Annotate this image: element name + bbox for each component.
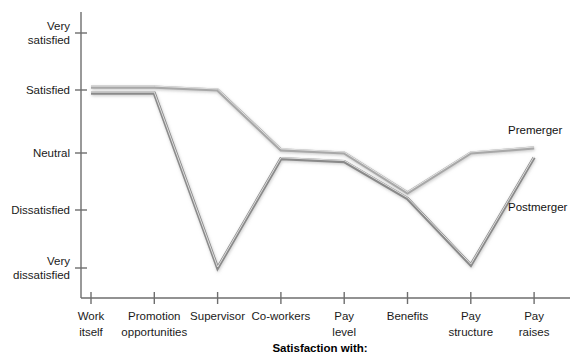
x-tick-label: Benefits bbox=[387, 310, 429, 322]
x-tick-label: Pay bbox=[461, 310, 481, 322]
y-tick-label: dissatisfied bbox=[13, 269, 70, 281]
series-annotations: PremergerPostmerger bbox=[508, 124, 568, 213]
x-tick-label: structure bbox=[448, 326, 493, 338]
x-tick-label: Work bbox=[78, 310, 105, 322]
y-tick-label: Very bbox=[47, 255, 70, 267]
x-axis-category-labels: WorkitselfPromotionopportunitiesSupervis… bbox=[78, 310, 550, 338]
series-highlight-postmerger bbox=[91, 92, 534, 267]
y-tick-label: Neutral bbox=[33, 147, 70, 159]
x-tick-label: raises bbox=[519, 326, 550, 338]
x-tick-label: Supervisor bbox=[190, 310, 245, 322]
y-tick-label: satisfied bbox=[28, 34, 70, 46]
chart-canvas: VerysatisfiedSatisfiedNeutralDissatisfie… bbox=[0, 0, 581, 355]
x-tick-label: Co-workers bbox=[252, 310, 311, 322]
series-lines bbox=[91, 86, 534, 268]
x-tick-label: Promotion bbox=[128, 310, 180, 322]
y-tick-label: Very bbox=[47, 20, 70, 32]
x-tick-label: Pay bbox=[334, 310, 354, 322]
x-axis-title: Satisfaction with: bbox=[272, 342, 367, 354]
series-line-postmerger bbox=[91, 93, 534, 268]
series-label-premerger: Premerger bbox=[508, 124, 562, 136]
x-tick-label: Pay bbox=[524, 310, 544, 322]
line-chart: VerysatisfiedSatisfiedNeutralDissatisfie… bbox=[0, 0, 581, 355]
x-tick-label: itself bbox=[79, 326, 103, 338]
y-axis-tick-labels: VerysatisfiedSatisfiedNeutralDissatisfie… bbox=[11, 20, 70, 281]
series-label-postmerger: Postmerger bbox=[508, 201, 568, 213]
x-tick-label: level bbox=[332, 326, 356, 338]
y-tick-label: Dissatisfied bbox=[11, 204, 70, 216]
x-tick-label: opportunities bbox=[121, 326, 187, 338]
y-tick-label: Satisfied bbox=[26, 84, 70, 96]
